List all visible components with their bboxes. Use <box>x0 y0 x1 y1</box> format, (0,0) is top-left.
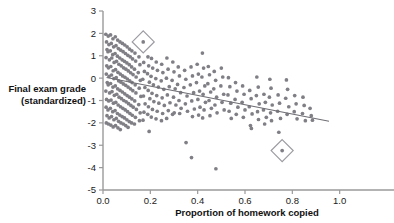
data-point <box>142 110 146 114</box>
data-point <box>193 107 197 111</box>
data-point <box>134 59 138 63</box>
data-point <box>270 103 274 107</box>
data-point <box>308 106 312 110</box>
y-tick-label: 1 <box>91 50 96 61</box>
data-point <box>195 81 199 85</box>
data-point <box>255 75 259 79</box>
data-point <box>178 74 182 78</box>
data-point <box>189 65 193 69</box>
data-point <box>166 93 170 97</box>
data-point <box>202 66 206 70</box>
data-point <box>113 84 117 88</box>
data-point <box>134 75 138 79</box>
data-point <box>222 108 226 112</box>
data-point <box>219 84 223 88</box>
data-point <box>228 85 232 89</box>
data-points <box>104 32 314 170</box>
data-point <box>219 66 223 70</box>
data-point <box>109 98 113 102</box>
x-tick-label: 0.8 <box>286 195 299 206</box>
data-point <box>150 57 154 61</box>
data-point <box>147 64 151 68</box>
data-point <box>134 115 138 119</box>
data-point <box>161 71 165 75</box>
data-point <box>277 130 281 134</box>
data-point <box>168 101 172 105</box>
data-point <box>160 96 164 100</box>
y-tick-label: -5 <box>88 184 96 195</box>
data-point <box>229 117 233 121</box>
data-point <box>110 115 114 119</box>
data-point <box>210 106 214 110</box>
data-point <box>149 115 153 119</box>
data-point <box>151 66 155 70</box>
data-point <box>126 126 130 130</box>
data-point <box>154 60 158 64</box>
data-point <box>131 73 135 77</box>
data-point <box>179 106 183 110</box>
data-point <box>159 79 163 83</box>
data-point <box>206 82 210 86</box>
data-point <box>287 105 291 109</box>
data-point <box>250 127 254 131</box>
data-point <box>155 109 159 113</box>
data-point <box>249 97 253 101</box>
data-point <box>280 149 284 153</box>
y-axis-title-line-1: Final exam grade <box>8 83 86 94</box>
data-point <box>143 102 147 106</box>
data-point <box>256 85 260 89</box>
data-point <box>262 92 266 96</box>
data-point <box>138 111 142 115</box>
data-point <box>234 81 238 85</box>
data-point <box>136 71 140 75</box>
data-point <box>268 95 272 99</box>
y-tick-label: -2 <box>88 117 96 128</box>
data-point <box>142 61 146 65</box>
data-point <box>110 90 114 94</box>
y-tick-label: -3 <box>88 140 96 151</box>
data-point <box>174 103 178 107</box>
data-point <box>235 89 239 93</box>
data-point <box>208 73 212 77</box>
data-point <box>268 77 272 81</box>
data-point <box>311 118 315 122</box>
data-point <box>257 118 261 122</box>
x-tick-label: 0.6 <box>238 195 251 206</box>
data-point <box>138 119 142 123</box>
data-point <box>208 114 212 118</box>
data-point <box>146 113 150 117</box>
data-point <box>115 59 119 63</box>
data-point <box>166 109 170 113</box>
data-point <box>184 77 188 81</box>
data-point <box>133 51 137 55</box>
data-point <box>150 91 154 95</box>
data-point <box>222 92 226 96</box>
data-point <box>113 109 117 113</box>
data-point <box>286 87 290 91</box>
data-point <box>255 94 259 98</box>
data-point <box>206 65 210 69</box>
data-point <box>279 117 283 121</box>
y-tick-label: -4 <box>88 162 96 173</box>
data-point <box>221 75 225 79</box>
data-point <box>114 44 118 48</box>
data-point <box>114 117 118 121</box>
tick-labels: 3210-1-2-3-4-50.00.20.40.60.81.0 <box>88 5 347 206</box>
data-point <box>157 101 161 105</box>
data-point <box>191 74 195 78</box>
data-point <box>137 103 141 107</box>
data-point <box>118 128 122 132</box>
data-point <box>195 62 199 66</box>
data-point <box>190 99 194 103</box>
data-point <box>292 110 296 114</box>
data-point <box>113 35 117 39</box>
data-point <box>165 76 169 80</box>
data-point <box>236 105 240 109</box>
data-point <box>301 112 305 116</box>
data-point <box>197 72 201 76</box>
data-point <box>165 56 169 60</box>
data-point <box>137 55 141 59</box>
data-point <box>146 72 150 76</box>
regression-line-segment <box>107 77 329 121</box>
data-point <box>160 119 164 123</box>
